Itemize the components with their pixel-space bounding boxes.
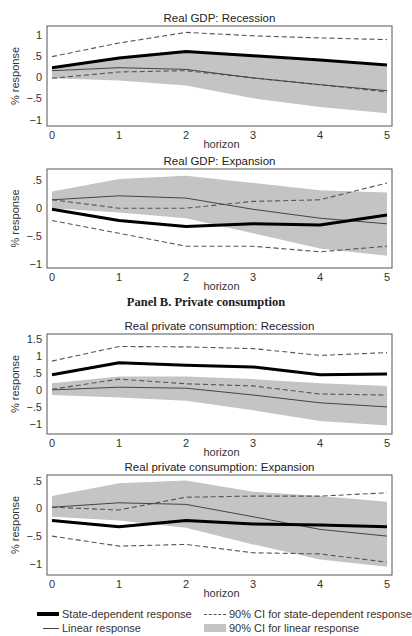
x-tick-label: 2 — [183, 578, 189, 590]
legend-label-linear: Linear response — [62, 622, 141, 634]
legend-label-ci-linear: 90% CI for linear response — [229, 622, 359, 634]
chart-title: Real private consumption: Expansion — [125, 461, 315, 473]
thin-line-swatch-icon — [43, 628, 59, 629]
legend-item-ci-state: 90% CI for state-dependent response — [204, 608, 412, 620]
x-tick-label: 1 — [116, 578, 122, 590]
x-axis-label: horizon — [203, 587, 239, 599]
x-tick-label: 5 — [384, 578, 390, 590]
legend-item-ci-linear: 90% CI for linear response — [204, 622, 359, 634]
gray-band-swatch-icon — [204, 624, 226, 632]
y-tick-label: 0 — [36, 502, 42, 514]
y-axis-label: % response — [9, 496, 21, 554]
x-tick-label: 0 — [49, 578, 55, 590]
y-tick-label: −1 — [29, 558, 42, 570]
x-tick-label: 4 — [317, 578, 323, 590]
dashed-line-swatch-icon — [204, 614, 226, 615]
legend: State-dependent response Linear response… — [0, 608, 412, 636]
legend-item-state: State-dependent response — [37, 608, 192, 620]
legend-item-linear: Linear response — [37, 622, 141, 634]
legend-label-ci-state: 90% CI for state-dependent response — [229, 608, 412, 620]
thick-line-swatch-icon — [37, 612, 59, 616]
y-tick-label: .5 — [33, 475, 42, 487]
y-tick-label: −.5 — [26, 530, 42, 542]
chart-consumption-expansion: Real private consumption: Expansion.50−.… — [0, 0, 412, 605]
legend-label-state: State-dependent response — [62, 608, 192, 620]
x-tick-label: 3 — [250, 578, 256, 590]
